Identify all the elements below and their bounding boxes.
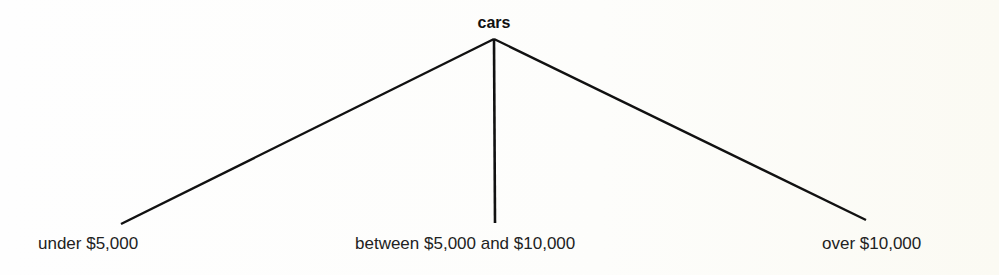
leaf-node-over-10000: over $10,000 <box>822 235 921 252</box>
leaf-node-between-5000-10000: between $5,000 and $10,000 <box>355 235 575 252</box>
root-node-label: cars <box>478 15 511 31</box>
edge-to-under-5000 <box>121 39 494 224</box>
edge-to-between-5000-10000 <box>494 39 495 223</box>
edge-to-over-10000 <box>494 39 866 220</box>
leaf-node-under-5000: under $5,000 <box>38 235 138 252</box>
tree-diagram: cars under $5,000 between $5,000 and $10… <box>0 0 999 275</box>
